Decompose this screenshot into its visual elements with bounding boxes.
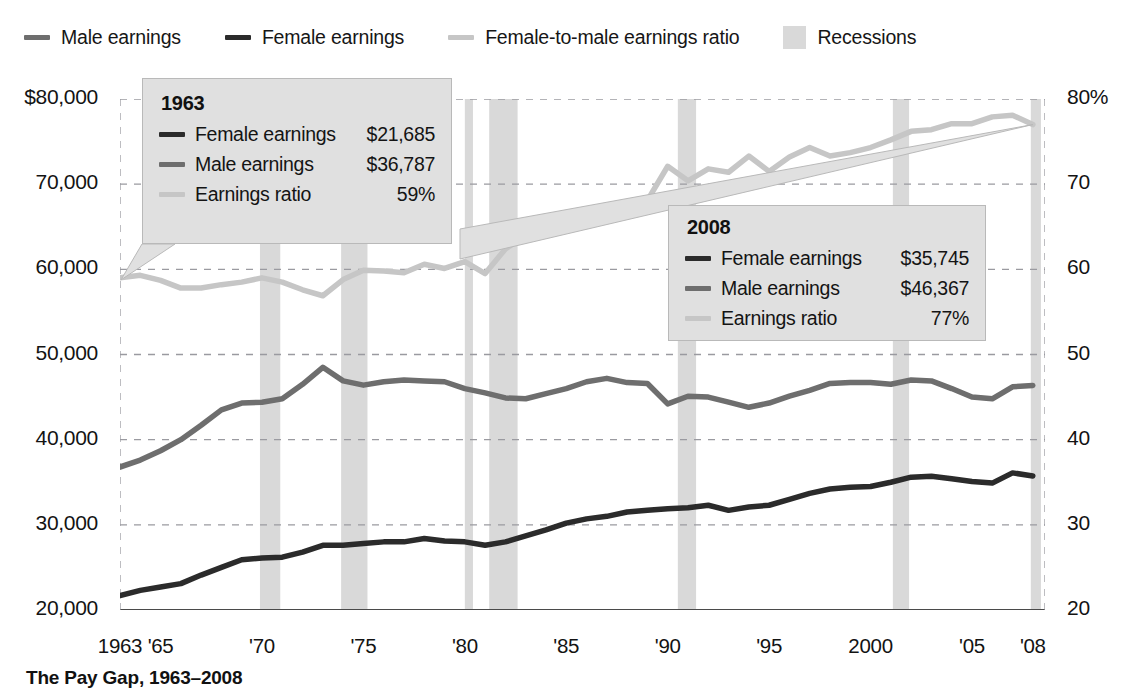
y-axis-left-tick-label: 60,000 [0,255,98,279]
x-axis-tick-label: '95 [724,634,814,658]
legend-label: Female-to-male earnings ratio [485,26,739,49]
callout-row-label: Female earnings [721,247,901,270]
callout-row-value: 77% [931,307,969,330]
line-swatch-icon [685,256,711,261]
block-swatch-icon [783,26,806,49]
callout-row-value: $35,745 [901,247,969,270]
line-swatch-icon [24,35,50,40]
y-axis-left-tick-label: 70,000 [0,170,98,194]
y-axis-left-tick-label: 40,000 [0,426,98,450]
legend-item-recessions[interactable]: Recessions [783,26,916,49]
callout-row: Earnings ratio 59% [159,179,435,209]
x-axis-tick-label: '80 [420,634,510,658]
legend-label: Recessions [817,26,916,49]
line-swatch-icon [448,35,474,40]
callout-row-value: $36,787 [367,153,435,176]
line-swatch-icon [159,132,185,137]
y-axis-right-tick-label: 40 [1067,426,1090,450]
y-axis-left-tick-label: 50,000 [0,341,98,365]
legend-item-male-earnings[interactable]: Male earnings [24,26,181,49]
y-axis-right-tick-label: 30 [1067,511,1090,535]
callout-row-label: Earnings ratio [721,307,931,330]
line-swatch-icon [159,162,185,167]
y-axis-left-tick-label: 30,000 [0,511,98,535]
figure-caption: The Pay Gap, 1963–2008 [26,667,242,689]
chart-legend: Male earnings Female earnings Female-to-… [24,20,1114,54]
callout-row: Female earnings $35,745 [685,243,969,273]
callout-row-label: Female earnings [195,123,367,146]
callout-row-value: $46,367 [901,277,969,300]
y-axis-right-tick-label: 80% [1067,85,1108,109]
line-swatch-icon [685,316,711,321]
x-axis-tick-label: '65 [116,634,206,658]
callout-row: Male earnings $46,367 [685,273,969,303]
callout-row: Female earnings $21,685 [159,119,435,149]
line-swatch-icon [685,286,711,291]
callout-row-value: $21,685 [367,123,435,146]
x-axis-tick-label: '08 [988,634,1078,658]
line-swatch-icon [225,35,251,40]
callout-row-label: Earnings ratio [195,183,397,206]
callout-title: 2008 [687,216,969,239]
legend-label: Female earnings [262,26,404,49]
y-axis-left-tick-label: 20,000 [0,596,98,620]
legend-item-earnings-ratio[interactable]: Female-to-male earnings ratio [448,26,739,49]
callout-title: 1963 [161,92,435,115]
legend-label: Male earnings [61,26,181,49]
line-swatch-icon [159,192,185,197]
callout-2008[interactable]: 2008 Female earnings $35,745 Male earnin… [668,205,986,341]
x-axis-tick-label: '90 [623,634,713,658]
x-axis-tick-label: 2000 [826,634,916,658]
y-axis-right-tick-label: 20 [1067,596,1090,620]
x-axis-tick-label: '70 [217,634,307,658]
y-axis-right-tick-label: 50 [1067,341,1090,365]
y-axis-left-tick-label: $80,000 [0,85,98,109]
callout-row-value: 59% [397,183,435,206]
callout-row: Earnings ratio 77% [685,303,969,333]
y-axis-right-tick-label: 70 [1067,170,1090,194]
legend-item-female-earnings[interactable]: Female earnings [225,26,404,49]
x-axis-tick-label: '85 [521,634,611,658]
callout-row-label: Male earnings [195,153,367,176]
callout-row-label: Male earnings [721,277,901,300]
y-axis-right-tick-label: 60 [1067,255,1090,279]
x-axis-tick-label: '75 [318,634,408,658]
callout-row: Male earnings $36,787 [159,149,435,179]
callout-1963[interactable]: 1963 Female earnings $21,685 Male earnin… [142,78,452,244]
